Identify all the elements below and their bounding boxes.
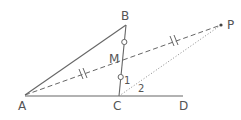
label-p: P bbox=[227, 18, 234, 32]
label-angle-1: 1 bbox=[124, 75, 130, 86]
geometry-diagram: B A C D M P 1 2 bbox=[0, 0, 241, 120]
point-p-dot bbox=[219, 23, 222, 26]
label-angle-2: 2 bbox=[138, 83, 144, 94]
label-a: A bbox=[18, 99, 27, 113]
label-m: M bbox=[109, 52, 119, 66]
label-c: C bbox=[113, 99, 121, 113]
segment-cp-dotted bbox=[119, 25, 221, 96]
label-b: B bbox=[121, 9, 129, 23]
segment-ap-dashed bbox=[25, 25, 221, 95]
equal-mark-mc bbox=[118, 74, 123, 79]
label-d: D bbox=[179, 99, 188, 113]
equal-mark-bm bbox=[122, 39, 127, 44]
